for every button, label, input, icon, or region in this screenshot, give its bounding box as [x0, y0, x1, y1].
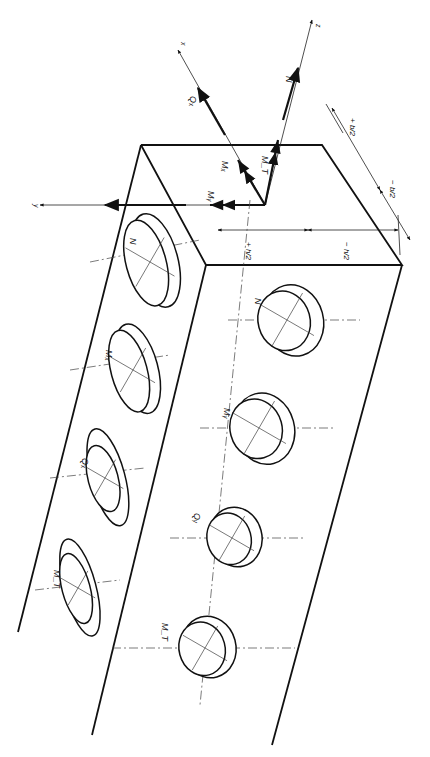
my-label: Mᵧ: [206, 191, 216, 202]
side-qy-label: Qᵧ: [192, 513, 202, 524]
x-axis-label: x: [180, 41, 187, 46]
top-n-diagram: [114, 208, 189, 314]
b-plus-label: + b/2: [348, 118, 357, 137]
h-plus-label: + h/2: [244, 242, 253, 261]
top-mt-label: M_T: [52, 570, 62, 590]
z-axis-label: z: [315, 23, 322, 28]
side-qy-diagram: [200, 501, 269, 573]
top-qx-label: Qₓ: [80, 458, 90, 469]
side-my-label: Mᵧ: [222, 408, 232, 419]
top-mx-label: Mₓ: [104, 350, 114, 361]
side-n-label: N: [253, 298, 263, 305]
z-axis: [265, 20, 312, 205]
h-minus-label: − h/2: [342, 242, 351, 261]
top-qx-diagram: [76, 425, 138, 531]
b-ext-line: [326, 104, 343, 133]
side-n-diagram: [250, 278, 331, 364]
coordinate-axes: y x z: [32, 20, 322, 208]
b-minus-label: − b/2: [388, 180, 397, 199]
y-axis-label: y: [32, 203, 40, 208]
side-face-diagrams: N Mᵧ Qᵧ M_T: [160, 278, 332, 685]
side-mt-label: M_T: [160, 623, 170, 643]
side-my-diagram: [222, 386, 302, 472]
dimensions: + b/2 − b/2 + h/2 − h/2: [218, 104, 410, 261]
top-n-label: N: [128, 238, 138, 245]
beam-stress-diagram: y x z Qₓ Mₓ Mᵧ M_T N + b/2 − b/2 + h/2 −…: [0, 0, 430, 757]
n-label: N: [284, 76, 294, 83]
top-mx-diagram: [100, 319, 169, 420]
qx-arrow: [198, 88, 225, 135]
mt-label: M_T: [260, 156, 270, 176]
qx-label: Qₓ: [188, 96, 198, 107]
mx-label: Mₓ: [220, 161, 230, 172]
section-forces: Qₓ Mₓ Mᵧ M_T N: [105, 68, 298, 205]
side-mt-diagram: [172, 610, 243, 685]
